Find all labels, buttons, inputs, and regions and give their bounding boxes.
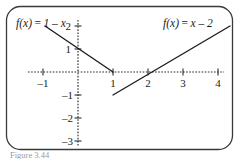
y-tick-label-neg2: –2 bbox=[61, 112, 73, 124]
right-label-expr: x – 2 bbox=[189, 17, 213, 29]
left-label-expr: 1 – x bbox=[43, 17, 66, 29]
left-label-equals: = bbox=[34, 17, 41, 29]
right-label-equals: = bbox=[181, 17, 188, 29]
figure-container: –1 1 2 3 4 2 1 –1 –2 –3 f(x)=1 – x f(x)=… bbox=[0, 0, 239, 159]
right-label-arg: (x) bbox=[166, 17, 179, 30]
y-tick-label-2: 2 bbox=[66, 20, 72, 32]
x-tick-label-3: 3 bbox=[180, 77, 186, 89]
y-tick-label-neg1: –1 bbox=[61, 89, 73, 101]
x-tick-label-neg1: –1 bbox=[37, 77, 49, 89]
x-tick-label-4: 4 bbox=[215, 77, 221, 89]
left-label-arg: (x) bbox=[19, 17, 32, 30]
x-tick-label-1: 1 bbox=[110, 77, 116, 89]
graph-figure: –1 1 2 3 4 2 1 –1 –2 –3 f(x)=1 – x f(x)=… bbox=[0, 0, 239, 159]
figure-caption: Figure 3.44 bbox=[10, 150, 50, 159]
y-tick-label-1: 1 bbox=[66, 43, 72, 55]
y-tick-label-neg3: –3 bbox=[61, 135, 74, 147]
x-tick-label-2: 2 bbox=[145, 77, 151, 89]
